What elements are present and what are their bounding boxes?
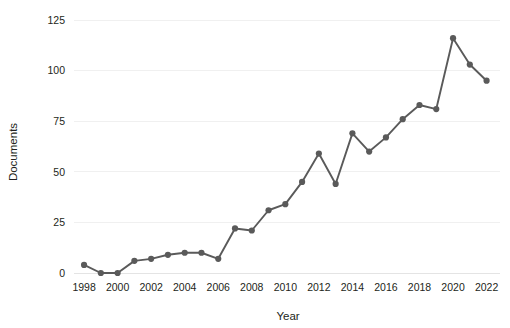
data-point-marker (165, 252, 171, 258)
x-axis-tick-label: 1998 (72, 281, 96, 293)
documents-by-year-line-chart: 0255075100125 19982000200220042006200820… (0, 0, 510, 328)
data-point-marker (316, 150, 322, 156)
chart-container: 0255075100125 19982000200220042006200820… (0, 0, 510, 328)
data-point-marker (232, 225, 238, 231)
data-point-marker (333, 181, 339, 187)
data-point-marker (433, 106, 439, 112)
y-axis-tick-label: 0 (59, 267, 65, 279)
x-axis-tick-label: 2002 (139, 281, 163, 293)
data-point-marker (182, 250, 188, 256)
y-axis-tick-label: 125 (47, 14, 65, 26)
data-point-marker (131, 258, 137, 264)
y-axis-tick-label: 100 (47, 64, 65, 76)
x-axis-tick-label: 2012 (307, 281, 331, 293)
data-point-marker (249, 227, 255, 233)
y-axis-title: Documents (7, 123, 19, 181)
x-axis-tick-label: 2006 (207, 281, 231, 293)
x-axis-tick-label: 2018 (408, 281, 432, 293)
x-axis-tick-label: 2022 (475, 281, 499, 293)
data-point-marker (282, 201, 288, 207)
data-point-marker (198, 250, 204, 256)
data-point-marker (265, 207, 271, 213)
data-point-marker (98, 270, 104, 276)
data-point-marker (349, 130, 355, 136)
data-point-marker (81, 262, 87, 268)
data-point-marker (400, 116, 406, 122)
data-point-marker (299, 179, 305, 185)
data-point-marker (483, 78, 489, 84)
data-point-marker (467, 61, 473, 67)
data-point-marker (366, 148, 372, 154)
data-point-marker (148, 256, 154, 262)
x-axis-tick-label: 2016 (374, 281, 398, 293)
x-axis-tick-label: 2014 (341, 281, 365, 293)
y-axis-tick-label: 50 (53, 166, 65, 178)
x-axis-tick-label: 2020 (441, 281, 465, 293)
x-axis-tick-label: 2004 (173, 281, 197, 293)
x-axis-tick-label: 2008 (240, 281, 264, 293)
data-point-marker (383, 134, 389, 140)
x-axis-tick-label: 2000 (106, 281, 130, 293)
data-point-marker (450, 35, 456, 41)
data-point-marker (416, 102, 422, 108)
y-axis-tick-label: 25 (53, 216, 65, 228)
chart-background (0, 0, 510, 328)
x-axis-tick-label: 2010 (274, 281, 298, 293)
x-axis-title: Year (276, 310, 299, 322)
data-point-marker (215, 256, 221, 262)
y-axis-tick-label: 75 (53, 115, 65, 127)
data-point-marker (115, 270, 121, 276)
